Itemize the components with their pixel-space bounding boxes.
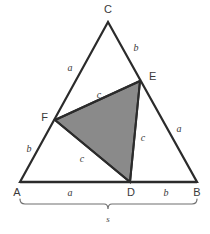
vertex-label-F: F [41, 111, 48, 123]
side-label-DB: b [164, 187, 169, 198]
side-label-FC: a [68, 62, 73, 73]
vertex-label-E: E [149, 70, 156, 82]
vertex-label-B: B [193, 186, 200, 198]
span-bracket-path [20, 199, 197, 209]
side-label-EB: a [177, 123, 182, 134]
side-label-ED: c [141, 132, 146, 143]
side-label-AD: a [68, 187, 73, 198]
side-label-FD: c [80, 153, 85, 164]
geometry-figure: C E F A D B b a b a a b c c c s [0, 0, 210, 234]
side-label-AF: b [27, 143, 32, 154]
figure-canvas: C E F A D B b a b a a b c c c s [0, 0, 210, 234]
span-label-s: s [106, 214, 110, 224]
vertex-label-C: C [104, 3, 112, 15]
vertex-label-D: D [127, 186, 135, 198]
vertex-label-A: A [13, 186, 21, 198]
side-label-CE: b [134, 42, 139, 53]
side-label-FE: c [97, 89, 102, 100]
